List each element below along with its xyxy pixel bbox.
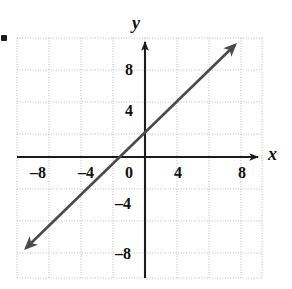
x-tick-label-origin: 0 [119, 165, 139, 181]
x-tick-label-neg8: –8 [22, 165, 54, 181]
graph-figure: –8 –4 0 4 8 8 4 –4 –8 x y [0, 0, 292, 289]
y-tick-label-pos4: 4 [119, 103, 139, 119]
y-tick-label-neg4: –4 [107, 196, 139, 212]
y-tick-label-neg8: –8 [107, 246, 139, 262]
x-tick-label-pos8: 8 [232, 165, 252, 181]
y-tick-label-pos8: 8 [119, 62, 139, 78]
y-axis-name: y [132, 14, 140, 32]
x-axis-name: x [268, 145, 277, 163]
x-tick-label-neg4: –4 [70, 165, 102, 181]
x-tick-label-pos4: 4 [168, 165, 188, 181]
coordinate-plane [0, 0, 292, 289]
